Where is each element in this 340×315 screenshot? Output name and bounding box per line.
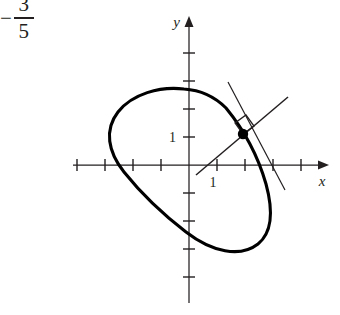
x-axis-label: x bbox=[318, 173, 326, 189]
plot-canvas: x 1 y 1 bbox=[0, 0, 340, 315]
y-axis-label: y bbox=[171, 14, 180, 30]
x-tick-label-1: 1 bbox=[210, 175, 217, 190]
y-tick-label-1: 1 bbox=[169, 130, 176, 145]
y-axis: y 1 bbox=[169, 14, 195, 303]
x-axis-arrowhead bbox=[318, 161, 329, 170]
tangency-point bbox=[238, 129, 248, 139]
x-axis: x 1 bbox=[73, 159, 329, 190]
figure-root: − 3 5 x 1 bbox=[0, 0, 340, 315]
y-axis-arrowhead bbox=[185, 16, 194, 27]
tangent-line bbox=[228, 82, 285, 190]
